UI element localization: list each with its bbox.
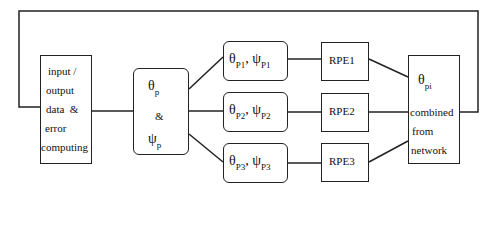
comma: , bbox=[245, 51, 249, 66]
theta-subscript: P1 bbox=[236, 60, 246, 70]
psi-subscript: P2 bbox=[261, 111, 271, 121]
comma: , bbox=[245, 102, 249, 117]
theta-symbol: θ bbox=[229, 102, 236, 117]
theta-symbol: θ bbox=[148, 78, 155, 93]
rpe3-to-output-line bbox=[369, 141, 408, 162]
theta-subscript: P3 bbox=[236, 162, 246, 172]
rpe-label: RPE2 bbox=[329, 105, 355, 118]
theta-subscript: P2 bbox=[236, 111, 246, 121]
psi-subscript: P3 bbox=[261, 162, 271, 172]
amp-label: & bbox=[155, 110, 164, 123]
input-label-4: error bbox=[45, 122, 66, 135]
input-label-1: input / bbox=[48, 65, 76, 78]
psi-symbol: ψ bbox=[252, 153, 261, 168]
input-label-2: output bbox=[46, 84, 74, 97]
output-label-2: from bbox=[412, 125, 433, 138]
rpe-label: RPE3 bbox=[329, 155, 355, 168]
psi-subscript: P1 bbox=[261, 60, 271, 70]
theta-symbol: θ bbox=[418, 72, 425, 87]
comma: , bbox=[245, 153, 249, 168]
param-branch-label: θP1, ψP1 bbox=[229, 52, 271, 72]
rpe-label: RPE1 bbox=[329, 54, 355, 67]
theta-subscript: p bbox=[155, 87, 160, 97]
theta-symbol: θ bbox=[229, 51, 236, 66]
input-label-5: computing bbox=[41, 141, 88, 154]
psi-symbol: ψ bbox=[148, 131, 157, 146]
psi-p-label: ψp bbox=[148, 132, 161, 152]
param-to-p1-line bbox=[189, 57, 223, 89]
output-label-3: network bbox=[411, 144, 447, 157]
psi-subscript: p bbox=[157, 140, 162, 150]
theta-pi-label: θpi bbox=[418, 73, 432, 93]
theta-p-label: θp bbox=[148, 79, 159, 99]
param-branch-label: θP2, ψP2 bbox=[229, 103, 271, 123]
rpe1-to-output-line bbox=[369, 59, 408, 77]
psi-symbol: ψ bbox=[252, 102, 261, 117]
param-to-p3-line bbox=[189, 134, 223, 162]
psi-symbol: ψ bbox=[252, 51, 261, 66]
theta-symbol: θ bbox=[229, 153, 236, 168]
param-branch-label: θP3, ψP3 bbox=[229, 154, 271, 174]
input-label-3: data & bbox=[46, 103, 78, 116]
output-label-1: combined bbox=[410, 106, 453, 119]
theta-subscript: pi bbox=[425, 81, 432, 91]
